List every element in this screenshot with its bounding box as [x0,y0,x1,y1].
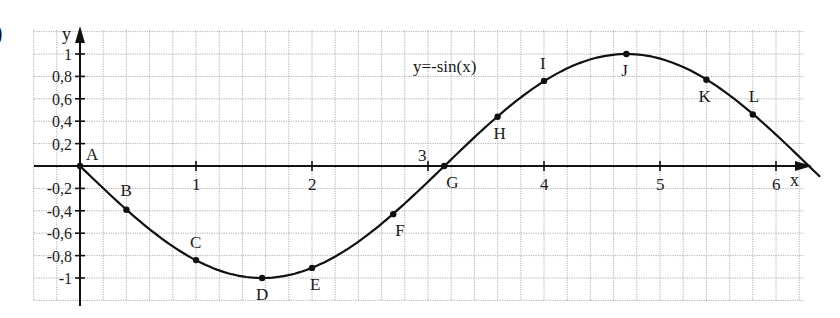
y-tick-label: -0,8 [47,248,72,265]
point-label-a: A [86,145,99,164]
y-tick-label: -1 [59,270,72,287]
y-tick-label: -0,2 [47,180,72,197]
curve-point-a [77,163,83,169]
curve-point-g [441,163,447,169]
point-label-h: H [494,124,506,143]
point-label-k: K [698,87,711,106]
x-tick-label: 1 [192,175,201,194]
y-tick-label: 0,6 [52,91,72,108]
curve-point-i [541,78,547,84]
curve-point-f [390,211,396,217]
x-tick-label: 6 [772,175,781,194]
y-tick-label: 0,4 [52,113,72,130]
curve-point-d [259,275,265,281]
y-tick-label: 1 [64,46,72,63]
x-tick-label: 2 [308,175,317,194]
x-tick-label: 4 [540,175,549,194]
y-tick-label: 0,2 [52,136,72,153]
point-label-l: L [749,87,759,106]
x-tick-label: 3 [418,146,427,165]
point-label-f: F [395,221,404,240]
curve-point-l [750,111,756,117]
point-label-j: J [621,61,628,80]
curve-point-e [309,265,315,271]
function-label: y=-sin(x) [413,57,476,76]
y-tick-label: -0,6 [47,225,72,242]
point-label-b: B [120,181,131,200]
curve-point-c [193,257,199,263]
curve-point-b [123,206,129,212]
point-label-i: I [540,54,546,73]
curve-point-j [623,51,629,57]
sine-graph: 12345610,80,60,40,2-0,2-0,4-0,6-0,8-1 AB… [0,0,840,318]
y-axis-arrow-icon [75,26,85,43]
point-label-d: D [256,285,268,304]
y-tick-label: 0,8 [52,68,72,85]
y-axis-label: y [62,24,71,44]
point-label-c: C [190,233,201,252]
point-label-g: G [446,173,458,192]
x-tick-label: 5 [656,175,665,194]
y-tick-label: -0,4 [47,203,72,220]
curve-point-h [494,114,500,120]
x-axis-label: x [790,170,799,190]
curve-point-k [703,77,709,83]
point-label-e: E [310,275,320,294]
